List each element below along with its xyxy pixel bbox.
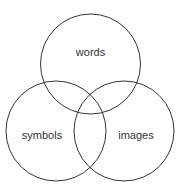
venn-diagram: words symbols images: [0, 0, 181, 189]
label-words: words: [75, 46, 106, 58]
label-symbols: symbols: [22, 129, 63, 141]
label-images: images: [118, 129, 154, 141]
circle-words: [41, 14, 141, 114]
